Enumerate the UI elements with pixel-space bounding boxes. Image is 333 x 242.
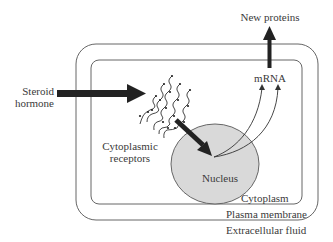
label-plasma-membrane: Plasma membrane xyxy=(226,208,307,220)
label-steroid-line1: Steroid xyxy=(10,85,54,97)
mrna-arrowhead-right-icon xyxy=(275,84,281,90)
mrna-arrowhead-left-icon xyxy=(259,84,265,90)
label-extracellular-fluid: Extracellular fluid xyxy=(226,224,306,236)
label-cytoplasmic-line1: Cytoplasmic xyxy=(100,140,160,152)
label-new-proteins: New proteins xyxy=(240,11,300,23)
cell-diagram xyxy=(0,0,333,242)
label-receptors-line2: receptors xyxy=(100,152,160,164)
label-hormone-line2: hormone xyxy=(10,97,54,109)
translation-arrow-icon xyxy=(263,26,276,68)
label-steroid-hormone: Steroid hormone xyxy=(10,85,54,109)
label-mrna: mRNA xyxy=(250,72,290,84)
steroid-entry-arrow-icon xyxy=(57,84,146,103)
label-cytoplasmic-receptors: Cytoplasmic receptors xyxy=(100,140,160,164)
label-cytoplasm: Cytoplasm xyxy=(241,192,289,204)
label-nucleus: Nucleus xyxy=(200,172,240,184)
